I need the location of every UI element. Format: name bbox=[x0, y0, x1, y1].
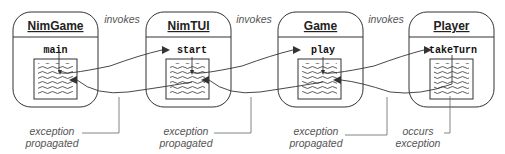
class-player: Player takeTurn bbox=[409, 12, 494, 107]
method-name: main bbox=[43, 45, 67, 56]
method-name: start bbox=[177, 45, 207, 56]
annotation-line2: propagated bbox=[288, 137, 343, 149]
class-title: NimGame bbox=[27, 19, 83, 33]
annotation-line2: propagated bbox=[24, 137, 79, 149]
invokes-label: invokes bbox=[236, 13, 272, 25]
exception-propagation-diagram: NimGame main NimTUI start Game play Play… bbox=[0, 0, 505, 154]
class-title: Game bbox=[304, 19, 338, 33]
class-title: NimTUI bbox=[168, 19, 210, 33]
code-scribble bbox=[302, 63, 337, 95]
class-nimgame: NimGame main bbox=[13, 12, 98, 107]
invokes-label: invokes bbox=[368, 13, 404, 25]
invokes-label: invokes bbox=[104, 13, 140, 25]
class-nimtui: NimTUI start bbox=[146, 12, 231, 107]
invoke-arrows bbox=[59, 50, 424, 73]
annotation-line1: exception bbox=[164, 125, 209, 137]
code-scribble bbox=[434, 63, 469, 95]
annotation-line2: propagated bbox=[158, 137, 213, 149]
class-title: Player bbox=[433, 19, 469, 33]
annotation-line2: exception bbox=[396, 137, 441, 149]
method-name: takeTurn bbox=[429, 45, 477, 56]
annotation-line1: exception bbox=[30, 125, 75, 137]
class-game: Game play bbox=[278, 12, 363, 107]
code-scribble bbox=[38, 63, 73, 95]
method-name: play bbox=[311, 45, 335, 56]
annotation-leaders bbox=[82, 96, 450, 135]
exception-arrows bbox=[77, 55, 452, 93]
code-scribble bbox=[170, 63, 205, 95]
arrowheads bbox=[58, 46, 432, 75]
annotation-line1: exception bbox=[294, 125, 339, 137]
annotation-line1: occurs bbox=[403, 125, 435, 137]
